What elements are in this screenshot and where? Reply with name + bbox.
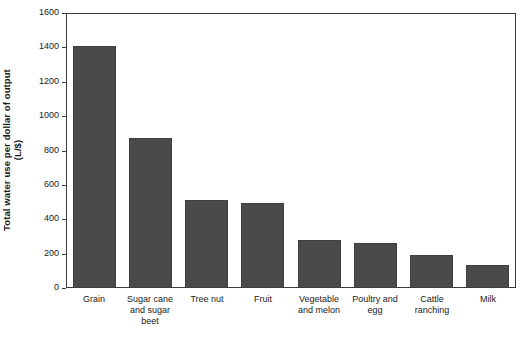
y-axis-tick-label: 1200 (19, 77, 59, 86)
y-axis-tick-label: 1600 (19, 8, 59, 17)
y-axis-tick-label: 0 (19, 283, 59, 292)
bar-chart-figure: Total water use per dollar of output (L/… (0, 0, 527, 340)
y-axis-tick (62, 151, 66, 152)
y-axis-tick-label: 1000 (19, 111, 59, 120)
x-axis-category-label: Sugar caneand sugarbeet (122, 294, 178, 327)
bar (298, 240, 341, 288)
x-axis-category-label-line: and sugar (130, 305, 170, 315)
x-axis-category-label: Vegetableand melon (291, 294, 347, 316)
x-axis-category-label: Fruit (235, 294, 291, 305)
x-axis-category-label-line: egg (367, 305, 382, 315)
x-axis-category-label-line: Vegetable (299, 294, 339, 304)
y-axis-tick (62, 185, 66, 186)
y-axis-tick-label: 600 (19, 180, 59, 189)
y-axis-tick (62, 82, 66, 83)
x-axis-category-label-line: Poultry and (352, 294, 398, 304)
y-axis-tick-label: 800 (19, 146, 59, 155)
y-axis-tick-label: 1400 (19, 42, 59, 51)
x-axis-category-label-line: and melon (298, 305, 340, 315)
bar (466, 265, 509, 288)
bar (410, 255, 453, 288)
y-axis-tick (62, 219, 66, 220)
x-axis-category-label-line: Tree nut (190, 294, 223, 304)
bar (354, 243, 397, 288)
bar (73, 46, 116, 288)
x-axis-category-label-line: Milk (480, 294, 496, 304)
x-axis-category-label-line: Grain (83, 294, 105, 304)
bar (241, 203, 284, 288)
y-axis-tick (62, 254, 66, 255)
y-axis-tick (62, 116, 66, 117)
x-axis-category-label-line: beet (141, 316, 159, 326)
x-axis-category-label: Tree nut (179, 294, 235, 305)
bar (129, 138, 172, 288)
y-axis-title-line1: Total water use per dollar of output (1, 69, 12, 231)
x-axis-category-label-line: Fruit (254, 294, 272, 304)
y-axis-tick (62, 47, 66, 48)
y-axis-tick-label: 400 (19, 214, 59, 223)
x-axis-category-label: Grain (66, 294, 122, 305)
x-axis-category-label-line: ranching (415, 305, 450, 315)
x-axis-category-label: Cattleranching (404, 294, 460, 316)
x-axis-category-label: Milk (460, 294, 516, 305)
y-axis-tick (62, 13, 66, 14)
x-axis-category-label: Poultry andegg (347, 294, 403, 316)
x-axis-category-label-line: Cattle (420, 294, 444, 304)
y-axis-tick (62, 288, 66, 289)
bar (185, 200, 228, 288)
y-axis-tick-label: 200 (19, 249, 59, 258)
x-axis-category-label-line: Sugar cane (127, 294, 173, 304)
